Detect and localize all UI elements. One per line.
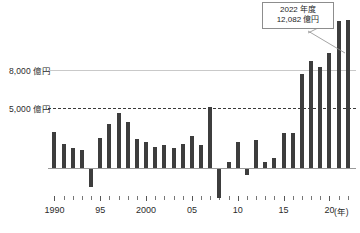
bar-chart: 8,000 億円 5,000 億円 199095200005101520 (年)… xyxy=(0,0,360,233)
bar xyxy=(89,169,93,187)
bar xyxy=(135,139,139,168)
bar xyxy=(62,144,66,169)
bar xyxy=(254,140,258,168)
bar xyxy=(144,142,148,168)
y-axis-label-8000: 8,000 億円 xyxy=(9,64,51,76)
bar xyxy=(272,158,276,168)
bar xyxy=(190,136,194,168)
bar xyxy=(282,133,286,168)
x-axis-unit-label: (年) xyxy=(334,205,349,217)
bar xyxy=(181,144,185,168)
bar xyxy=(337,21,341,168)
bar xyxy=(153,147,157,168)
bar xyxy=(291,133,295,168)
bar xyxy=(199,145,203,168)
x-axis-label: 95 xyxy=(95,205,105,215)
bar xyxy=(245,169,249,175)
x-axis-label: 05 xyxy=(187,205,197,215)
bar xyxy=(208,107,212,168)
bar xyxy=(318,67,322,168)
bar xyxy=(236,142,240,168)
bar xyxy=(98,138,102,168)
bar xyxy=(217,169,221,198)
bar xyxy=(52,132,56,168)
x-axis-label: 2000 xyxy=(136,205,156,215)
bar-series xyxy=(48,0,356,233)
x-axis-label: 1990 xyxy=(44,205,64,215)
x-axis-label: 10 xyxy=(233,205,243,215)
bar xyxy=(80,150,84,168)
bar xyxy=(162,145,166,168)
bar xyxy=(327,53,331,168)
bar xyxy=(71,148,75,168)
bar xyxy=(300,74,304,168)
annotation-line-1: 2022 年度 xyxy=(265,5,331,15)
bar xyxy=(172,148,176,168)
bar xyxy=(309,61,313,168)
bar xyxy=(227,162,231,168)
bar xyxy=(346,20,350,168)
bar xyxy=(117,113,121,168)
bar xyxy=(107,124,111,168)
x-axis-label: 20 xyxy=(324,205,334,215)
x-axis-label: 15 xyxy=(279,205,289,215)
annotation-callout: 2022 年度 12,082 億円 xyxy=(262,2,334,29)
bar xyxy=(126,122,130,168)
bar xyxy=(263,162,267,168)
y-axis-label-5000: 5,000 億円 xyxy=(9,102,51,114)
annotation-line-2: 12,082 億円 xyxy=(265,15,331,25)
